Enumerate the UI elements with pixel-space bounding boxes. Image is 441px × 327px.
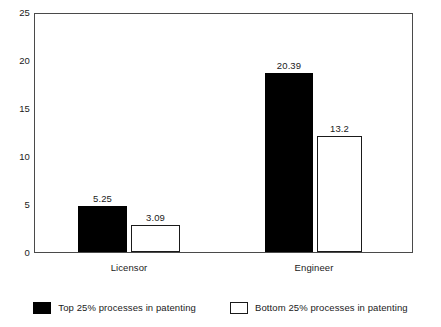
y-tick-label-0: 0	[4, 248, 30, 258]
y-axis: 25 20 15 10 5 0	[0, 13, 30, 253]
bar-licensor-top25[interactable]	[78, 206, 127, 252]
category-label-licensor: Licensor	[77, 263, 181, 273]
legend-entry-top25[interactable]: Top 25% processes in patenting	[33, 302, 196, 314]
y-tick-label-25: 25	[4, 8, 30, 18]
legend-swatch-bottom25-icon	[230, 302, 248, 314]
bar-engineer-bottom25[interactable]	[317, 136, 362, 252]
legend-label-bottom25: Bottom 25% processes in patenting	[255, 303, 408, 313]
bar-value-licensor-bottom25: 3.09	[131, 213, 180, 223]
bar-value-engineer-top25: 20.39	[264, 61, 314, 71]
bar-value-engineer-bottom25: 13.2	[316, 124, 363, 134]
bar-engineer-top25[interactable]	[265, 73, 313, 252]
y-tick-label-15: 15	[4, 104, 30, 114]
category-label-engineer: Engineer	[264, 263, 364, 273]
legend-swatch-top25-icon	[33, 302, 51, 314]
legend: Top 25% processes in patenting Bottom 25…	[0, 298, 441, 318]
y-tick-label-20: 20	[4, 56, 30, 66]
bar-licensor-bottom25[interactable]	[131, 225, 180, 252]
bar-chart: 25 20 15 10 5 0 5.25 3.09 20.39 13.2 Lic…	[0, 0, 441, 327]
legend-entry-bottom25[interactable]: Bottom 25% processes in patenting	[230, 302, 408, 314]
y-tick-label-10: 10	[4, 152, 30, 162]
plot-area: 5.25 3.09 20.39 13.2	[34, 13, 413, 253]
legend-label-top25: Top 25% processes in patenting	[58, 303, 196, 313]
y-tick-label-5: 5	[4, 200, 30, 210]
bar-value-licensor-top25: 5.25	[78, 194, 127, 204]
